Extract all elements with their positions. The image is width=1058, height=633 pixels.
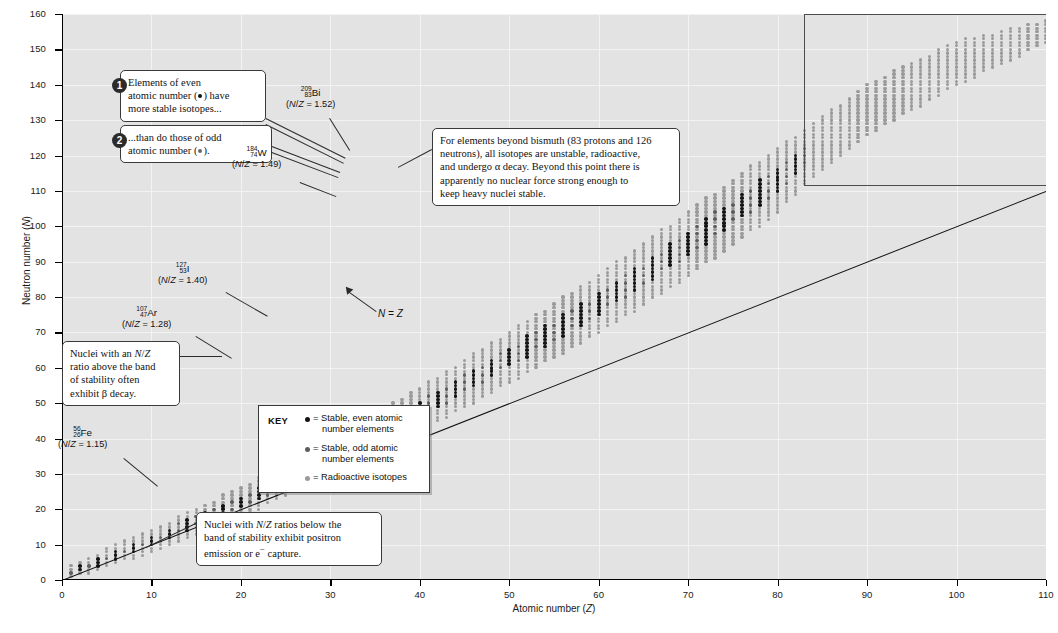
radioactive-isotope-dot: [284, 493, 287, 496]
radioactive-isotope-dot: [534, 334, 537, 337]
radioactive-isotope-dot: [624, 302, 627, 305]
radioactive-isotope-dot: [660, 264, 663, 267]
y-tick: [55, 85, 62, 86]
x-tick-label: 60: [586, 589, 612, 600]
radioactive-isotope-dot: [767, 157, 770, 160]
radioactive-isotope-dot: [123, 547, 126, 550]
radioactive-isotope-dot: [463, 394, 466, 397]
radioactive-isotope-dot: [740, 221, 743, 224]
radioactive-isotope-dot: [678, 218, 681, 221]
stable-odd-z-dot: [534, 345, 537, 348]
stable-even-z-dot: [597, 306, 601, 310]
gridline-horizontal: [62, 262, 1046, 263]
stable-even-z-dot: [185, 522, 189, 526]
radioactive-isotope-dot: [490, 341, 493, 344]
radioactive-isotope-dot: [731, 207, 734, 210]
stable-odd-z-dot: [624, 281, 627, 284]
radioactive-isotope-dot: [499, 355, 502, 358]
isotope-label-silver: 10747 Ar(N/Z = 1.28): [122, 306, 171, 329]
radioactive-isotope-dot: [436, 387, 439, 390]
radioactive-isotope-dot: [570, 338, 573, 341]
radioactive-isotope-dot: [499, 348, 502, 351]
radioactive-isotope-dot: [704, 260, 707, 263]
stable-odd-z-dot: [570, 317, 573, 320]
radioactive-isotope-dot: [713, 193, 716, 196]
radioactive-isotope-dot: [141, 532, 144, 535]
radioactive-isotope-dot: [159, 532, 162, 535]
radioactive-isotope-dot: [552, 355, 555, 358]
radioactive-isotope-dot: [517, 363, 520, 366]
radioactive-isotope-dot: [740, 218, 743, 221]
stable-even-z-dot: [436, 405, 440, 409]
radioactive-isotope-dot: [239, 493, 242, 496]
radioactive-isotope-dot: [669, 285, 672, 288]
radioactive-isotope-dot: [695, 242, 698, 245]
radioactive-isotope-dot: [678, 235, 681, 238]
radioactive-isotope-dot: [472, 387, 475, 390]
gridline-horizontal: [62, 403, 1046, 404]
radioactive-isotope-dot: [212, 501, 215, 504]
radioactive-isotope-dot: [669, 232, 672, 235]
callout-beyond-bismuth: For elements beyond bismuth (83 protons …: [432, 128, 680, 206]
isotope-element-symbol: Bi: [312, 87, 321, 98]
stable-odd-z-dot: [731, 210, 734, 213]
y-tick: [55, 509, 62, 510]
radioactive-isotope-dot: [713, 253, 716, 256]
stable-even-z-dot: [543, 331, 547, 335]
stable-even-z-dot: [597, 302, 601, 306]
key-row-text: = Stable, odd atomicnumber elements: [313, 443, 398, 466]
radioactive-isotope-dot: [660, 239, 663, 242]
radioactive-isotope-dot: [642, 264, 645, 267]
radioactive-isotope-dot: [561, 299, 564, 302]
key-row: = Stable, even atomicnumber elements: [267, 413, 419, 436]
radioactive-isotope-dot: [248, 483, 251, 486]
radioactive-isotope-dot: [651, 235, 654, 238]
radioactive-isotope-dot: [740, 186, 743, 189]
radioactive-isotope-dot: [704, 200, 707, 203]
radioactive-isotope-dot: [186, 536, 189, 539]
radioactive-isotope-dot: [704, 249, 707, 252]
stable-odd-z-dot: [695, 225, 698, 228]
radioactive-isotope-dot: [785, 157, 788, 160]
radioactive-isotope-dot: [660, 278, 663, 281]
radioactive-isotope-dot: [678, 264, 681, 267]
radioactive-isotope-dot: [722, 203, 725, 206]
stable-even-z-dot: [668, 242, 672, 246]
y-tick: [55, 262, 62, 263]
radioactive-isotope-dot: [526, 324, 529, 327]
stable-even-z-dot: [704, 221, 708, 225]
radioactive-isotope-dot: [526, 363, 529, 366]
callout-positron-line3: emission or e− capture.: [204, 544, 374, 560]
y-tick: [55, 14, 62, 15]
radioactive-isotope-dot: [651, 288, 654, 291]
stable-even-z-dot: [758, 196, 762, 200]
stable-odd-z-dot: [713, 210, 716, 213]
y-tick-label: 10: [20, 539, 46, 550]
stable-even-z-dot: [579, 306, 583, 310]
radioactive-isotope-dot: [713, 256, 716, 259]
radioactive-isotope-dot: [687, 271, 690, 274]
stable-odd-z-dot: [767, 189, 770, 192]
x-tick: [330, 580, 331, 586]
radioactive-isotope-dot: [150, 532, 153, 535]
radioactive-isotope-dot: [695, 256, 698, 259]
stable-even-z-dot: [776, 175, 780, 179]
gridline-vertical: [688, 14, 689, 580]
stable-even-z-dot: [507, 355, 511, 359]
radioactive-isotope-dot: [508, 380, 511, 383]
isotope-element-symbol: Fe: [81, 427, 92, 438]
stable-even-z-dot: [579, 324, 583, 328]
radioactive-isotope-dot: [704, 196, 707, 199]
y-axis-label-post: ): [21, 216, 32, 219]
callout-beta-line2: ratio above the band: [70, 360, 172, 373]
radioactive-isotope-dot: [660, 242, 663, 245]
y-tick: [55, 156, 62, 157]
isotope-mass-z-stack: 5626: [73, 426, 80, 439]
radioactive-isotope-dot: [517, 324, 520, 327]
stable-even-z-dot: [597, 299, 601, 303]
stable-odd-z-dot: [481, 373, 484, 376]
y-tick: [55, 226, 62, 227]
radioactive-isotope-dot: [722, 189, 725, 192]
x-tick-label: 80: [765, 589, 791, 600]
